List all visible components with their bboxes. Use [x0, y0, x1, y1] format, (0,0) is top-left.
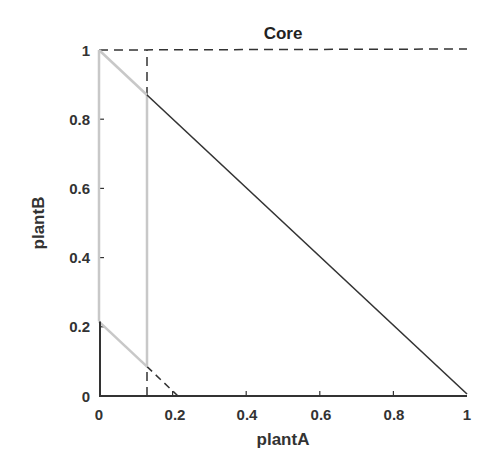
x-tick-label: 0.8: [384, 406, 405, 423]
x-tick-label: 0.6: [311, 406, 332, 423]
dashed-horizontal-top: [99, 49, 467, 50]
y-tick-label: 0.4: [69, 249, 91, 266]
y-tick-label: 0.6: [69, 180, 90, 197]
y-tick-label: 0.2: [69, 318, 90, 335]
x-tick-label: 0.2: [165, 406, 186, 423]
dashed-lower-diagonal: [147, 367, 178, 396]
chart-title: Core: [264, 24, 303, 43]
y-tick-label: 0.8: [69, 111, 90, 128]
y-tick-label: 0: [82, 388, 90, 405]
y-tick-label: 1: [82, 42, 90, 59]
core-boundary-grey: [99, 50, 147, 367]
x-axis-label: plantA: [257, 430, 310, 449]
x-tick-label: 0.4: [237, 406, 259, 423]
y-axis-label: plantB: [29, 197, 48, 250]
x-tick-label: 1: [463, 406, 471, 423]
core-boundary-black-diagonal: [147, 95, 467, 394]
chart-canvas: 0 0.2 0.4 0.6 0.8 1 0 0.2 0.4 0.6 0.8 1 …: [0, 0, 496, 475]
x-tick-label: 0: [95, 406, 103, 423]
